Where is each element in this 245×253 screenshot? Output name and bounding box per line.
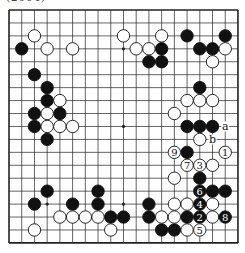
white-stone	[105, 224, 117, 236]
white-stone	[194, 133, 206, 145]
black-stone	[92, 185, 104, 197]
black-stone	[181, 211, 193, 223]
white-stone	[41, 120, 53, 132]
white-stone	[54, 94, 66, 106]
point-label-a: a	[222, 120, 229, 133]
black-stone	[194, 81, 206, 93]
black-stone	[194, 172, 206, 184]
white-stone	[206, 159, 218, 171]
black-stone	[168, 224, 180, 236]
black-stone	[92, 198, 104, 210]
white-stone	[181, 224, 193, 236]
white-stone	[206, 94, 218, 106]
black-stone	[105, 211, 117, 223]
white-stone	[206, 211, 218, 223]
white-stone	[41, 107, 53, 119]
black-stone	[143, 211, 155, 223]
white-stone	[168, 211, 180, 223]
move-number-label: 7	[184, 160, 190, 171]
move-number-label: 5	[197, 225, 203, 236]
white-stone	[66, 43, 78, 55]
black-stone	[219, 30, 231, 42]
move-number-label: 4	[197, 199, 203, 210]
black-stone	[206, 43, 218, 55]
white-stone	[66, 120, 78, 132]
black-stone	[41, 133, 53, 145]
black-stone	[66, 198, 78, 210]
black-stone	[219, 185, 231, 197]
black-stone	[206, 120, 218, 132]
white-stone	[168, 107, 180, 119]
black-stone	[181, 120, 193, 132]
star-point	[46, 203, 49, 206]
black-stone	[143, 56, 155, 68]
white-stone	[168, 172, 180, 184]
move-number-label: 1	[222, 147, 228, 158]
white-stone	[79, 211, 91, 223]
white-stone	[66, 211, 78, 223]
black-stone	[181, 146, 193, 158]
black-stone	[41, 81, 53, 93]
black-stone	[28, 198, 40, 210]
white-stone	[117, 30, 129, 42]
black-stone	[28, 120, 40, 132]
white-stone	[155, 30, 167, 42]
black-stone	[194, 120, 206, 132]
black-stone	[143, 198, 155, 210]
black-stone	[41, 185, 53, 197]
white-stone	[28, 224, 40, 236]
move-number-label: 3	[197, 160, 203, 171]
black-stone	[28, 69, 40, 81]
black-stone	[41, 94, 53, 106]
white-stone	[130, 43, 142, 55]
black-stone	[54, 107, 66, 119]
white-stone	[92, 211, 104, 223]
black-stone	[155, 224, 167, 236]
black-stone	[16, 43, 28, 55]
move-number-label: 2	[197, 212, 203, 223]
star-point	[122, 47, 125, 50]
white-stone	[54, 120, 66, 132]
white-stone	[206, 198, 218, 210]
move-number-label: 9	[171, 147, 177, 158]
white-stone	[168, 198, 180, 210]
black-stone	[117, 211, 129, 223]
white-stone	[54, 211, 66, 223]
white-stone	[143, 43, 155, 55]
star-point	[122, 203, 125, 206]
black-stone	[194, 43, 206, 55]
white-stone	[219, 43, 231, 55]
black-stone	[155, 56, 167, 68]
black-stone	[206, 185, 218, 197]
move-number-label: 8	[222, 212, 228, 223]
white-stone	[28, 30, 40, 42]
go-board: 123456789ab	[0, 0, 245, 253]
white-stone	[194, 94, 206, 106]
white-stone	[41, 43, 53, 55]
white-stone	[155, 211, 167, 223]
black-stone	[181, 30, 193, 42]
point-label-b: b	[209, 133, 216, 146]
white-stone	[206, 56, 218, 68]
star-point	[122, 125, 125, 128]
white-stone	[181, 94, 193, 106]
move-number-label: 6	[197, 186, 203, 197]
black-stone	[155, 43, 167, 55]
black-stone	[28, 107, 40, 119]
white-stone	[181, 198, 193, 210]
